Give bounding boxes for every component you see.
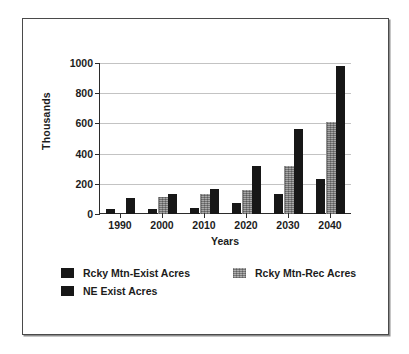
x-tick-mark [204, 213, 205, 218]
y-axis-line [99, 63, 100, 214]
legend-swatch-icon [61, 286, 74, 296]
x-tick-mark [288, 213, 289, 218]
legend-label: Rcky Mtn-Rec Acres [255, 267, 356, 279]
bar [148, 209, 157, 214]
y-tick-label: 400 [59, 148, 93, 160]
y-tick-label: 0 [59, 208, 93, 220]
legend-item-rcky-mtn-rec-acres: Rcky Mtn-Rec Acres [233, 267, 356, 279]
y-tick-label: 800 [59, 87, 93, 99]
x-tick-label: 2000 [141, 219, 183, 231]
bar-group [274, 63, 303, 214]
bar-group [190, 63, 219, 214]
plot-area [99, 63, 351, 214]
legend-item-ne-exist-acres: NE Exist Acres [61, 285, 157, 297]
x-tick-mark [246, 213, 247, 218]
y-tick-mark [95, 214, 100, 215]
legend-label: Rcky Mtn-Exist Acres [83, 267, 190, 279]
y-tick-label: 200 [59, 178, 93, 190]
bar-group [148, 63, 177, 214]
x-axis-tick-labels: 199020002010202020302040 [99, 219, 351, 235]
x-tick-mark [120, 213, 121, 218]
x-tick-mark [330, 213, 331, 218]
bar-group [232, 63, 261, 214]
y-tick-label: 600 [59, 117, 93, 129]
gridline [99, 184, 351, 185]
gridline [99, 154, 351, 155]
y-tick-mark [95, 93, 100, 94]
y-axis-title: Thousands [40, 76, 52, 166]
y-tick-mark [95, 154, 100, 155]
gridline [99, 63, 351, 64]
y-tick-mark [95, 63, 100, 64]
bar-group [316, 63, 345, 214]
chart-frame: Thousands 02004006008001000 199020002010… [22, 18, 389, 335]
x-tick-mark [162, 213, 163, 218]
bar [232, 203, 241, 214]
y-tick-label: 1000 [59, 57, 93, 69]
bar [106, 209, 115, 214]
x-tick-label: 2010 [183, 219, 225, 231]
bar [126, 198, 135, 214]
gridline [99, 93, 351, 94]
bar [274, 194, 283, 214]
x-axis-title: Years [99, 235, 351, 247]
y-tick-mark [95, 184, 100, 185]
bar [252, 166, 261, 214]
chart-legend: Rcky Mtn-Exist Acres Rcky Mtn-Rec Acres … [61, 267, 371, 307]
legend-item-rcky-mtn-exist-acres: Rcky Mtn-Exist Acres [61, 267, 190, 279]
y-tick-mark [95, 123, 100, 124]
bar-group [106, 63, 135, 214]
x-tick-label: 2040 [309, 219, 351, 231]
bar [190, 208, 199, 214]
x-tick-label: 2030 [267, 219, 309, 231]
legend-swatch-icon [61, 268, 74, 278]
x-tick-label: 1990 [99, 219, 141, 231]
legend-label: NE Exist Acres [83, 285, 157, 297]
bar [210, 189, 219, 214]
x-tick-label: 2020 [225, 219, 267, 231]
bar [168, 194, 177, 214]
bar [294, 129, 303, 214]
legend-swatch-icon [233, 268, 246, 278]
x-axis-line [99, 213, 351, 214]
bar-chart: Thousands 02004006008001000 199020002010… [23, 19, 390, 336]
gridline [99, 123, 351, 124]
bar [316, 179, 325, 214]
bar [336, 66, 345, 214]
